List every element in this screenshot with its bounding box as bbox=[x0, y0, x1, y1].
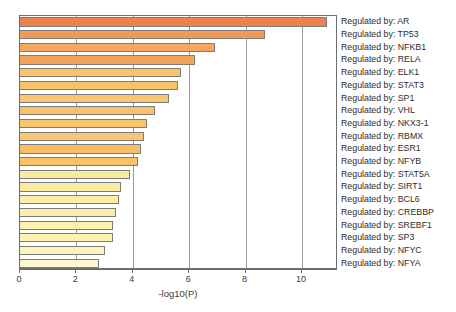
category-label: Regulated by: STAT3 bbox=[341, 80, 424, 90]
bar[interactable] bbox=[19, 68, 181, 77]
bar-row bbox=[20, 29, 337, 42]
bar[interactable] bbox=[19, 119, 147, 128]
plot-area bbox=[19, 15, 337, 269]
bar[interactable] bbox=[19, 30, 265, 39]
bar-chart-figure: 0246810 -log10(P) Regulated by: ARRegula… bbox=[0, 0, 456, 312]
bar-row bbox=[20, 181, 337, 194]
bar-row bbox=[20, 168, 337, 181]
category-label: Regulated by: NFYA bbox=[341, 258, 421, 268]
x-tick-label: 0 bbox=[7, 274, 31, 285]
bar[interactable] bbox=[19, 94, 169, 103]
bar[interactable] bbox=[19, 170, 130, 179]
bar[interactable] bbox=[19, 221, 113, 230]
tick-mark-2 bbox=[75, 269, 76, 273]
category-label: Regulated by: SIRT1 bbox=[341, 181, 423, 191]
bar-row bbox=[20, 156, 337, 169]
bar-row bbox=[20, 92, 337, 105]
bar-row bbox=[20, 16, 337, 29]
x-axis-title: -log10(P) bbox=[19, 288, 337, 299]
category-label: Regulated by: VHL bbox=[341, 105, 415, 115]
category-label: Regulated by: RBMX bbox=[341, 131, 423, 141]
bar[interactable] bbox=[19, 246, 105, 255]
bar-row bbox=[20, 232, 337, 245]
bar[interactable] bbox=[19, 195, 119, 204]
category-label: Regulated by: BCL6 bbox=[341, 194, 420, 204]
tick-mark-6 bbox=[188, 269, 189, 273]
tick-mark-10 bbox=[301, 269, 302, 273]
bar-row bbox=[20, 194, 337, 207]
category-label: Regulated by: NFYC bbox=[341, 245, 422, 255]
bar-row bbox=[20, 54, 337, 67]
bar[interactable] bbox=[19, 233, 113, 242]
category-label: Regulated by: RELA bbox=[341, 54, 421, 64]
bar-row bbox=[20, 143, 337, 156]
category-label: Regulated by: STAT5A bbox=[341, 169, 430, 179]
x-tick-label: 2 bbox=[63, 274, 87, 285]
category-label: Regulated by: NFYB bbox=[341, 156, 421, 166]
bar-row bbox=[20, 105, 337, 118]
bar[interactable] bbox=[19, 55, 195, 64]
bar-row bbox=[20, 41, 337, 54]
bar[interactable] bbox=[19, 144, 141, 153]
bar[interactable] bbox=[19, 17, 327, 26]
bar[interactable] bbox=[19, 259, 99, 268]
category-label: Regulated by: SP3 bbox=[341, 232, 414, 242]
bar-row bbox=[20, 219, 337, 232]
bar[interactable] bbox=[19, 208, 116, 217]
bar-row bbox=[20, 130, 337, 143]
category-label: Regulated by: AR bbox=[341, 16, 409, 26]
bars-container bbox=[20, 16, 336, 268]
bar[interactable] bbox=[19, 81, 178, 90]
bar[interactable] bbox=[19, 106, 155, 115]
tick-mark-0 bbox=[19, 269, 20, 273]
category-label: Regulated by: SP1 bbox=[341, 93, 414, 103]
category-labels: Regulated by: ARRegulated by: TP53Regula… bbox=[341, 12, 456, 274]
bar-row bbox=[20, 118, 337, 131]
bar-row bbox=[20, 245, 337, 258]
bar[interactable] bbox=[19, 182, 121, 191]
x-tick-label: 4 bbox=[120, 274, 144, 285]
x-tick-label: 10 bbox=[289, 274, 313, 285]
category-label: Regulated by: ELK1 bbox=[341, 67, 419, 77]
category-label: Regulated by: NFKB1 bbox=[341, 42, 426, 52]
bar-row bbox=[20, 67, 337, 80]
bar[interactable] bbox=[19, 132, 144, 141]
x-axis-line bbox=[19, 269, 337, 270]
x-tick-label: 8 bbox=[233, 274, 257, 285]
tick-mark-4 bbox=[132, 269, 133, 273]
bar-row bbox=[20, 257, 337, 269]
category-label: Regulated by: NKX3-1 bbox=[341, 118, 429, 128]
tick-mark-8 bbox=[245, 269, 246, 273]
bar[interactable] bbox=[19, 157, 138, 166]
category-label: Regulated by: TP53 bbox=[341, 29, 419, 39]
bar-row bbox=[20, 207, 337, 220]
category-label: Regulated by: SREBF1 bbox=[341, 220, 432, 230]
bar[interactable] bbox=[19, 43, 215, 52]
category-label: Regulated by: CREBBP bbox=[341, 207, 434, 217]
x-tick-label: 6 bbox=[176, 274, 200, 285]
bar-row bbox=[20, 80, 337, 93]
category-label: Regulated by: ESR1 bbox=[341, 143, 421, 153]
